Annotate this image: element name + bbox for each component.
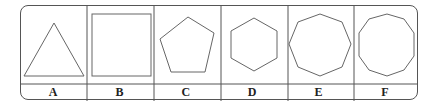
square-shape bbox=[92, 14, 151, 76]
triangle-shape bbox=[24, 23, 84, 76]
label-a: A bbox=[20, 84, 86, 101]
decagon-shape bbox=[359, 14, 414, 76]
octagon-shape bbox=[289, 14, 351, 76]
label-f: F bbox=[352, 84, 418, 101]
label-d: D bbox=[219, 84, 285, 101]
hexagon-shape bbox=[231, 18, 277, 71]
label-c: C bbox=[153, 84, 219, 101]
pentagon-shape bbox=[160, 17, 214, 72]
label-b: B bbox=[86, 84, 152, 101]
label-row: A B C D E F bbox=[20, 84, 418, 101]
label-e: E bbox=[285, 84, 351, 101]
